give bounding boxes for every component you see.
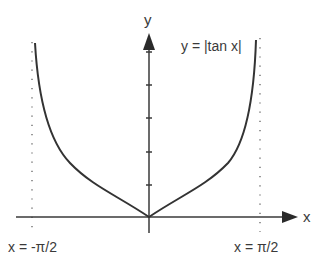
curve-abs-tan [35,40,256,217]
left-asymptote-label: x = -π/2 [8,240,57,254]
x-axis-arrow-icon [282,211,298,223]
chart-canvas [0,0,328,270]
right-asymptote-label: x = π/2 [234,240,278,254]
y-axis-arrow-icon [143,33,155,50]
curve-label: y = |tan x| [181,39,242,53]
y-axis-label: y [144,12,152,27]
x-axis-label: x [303,209,311,224]
